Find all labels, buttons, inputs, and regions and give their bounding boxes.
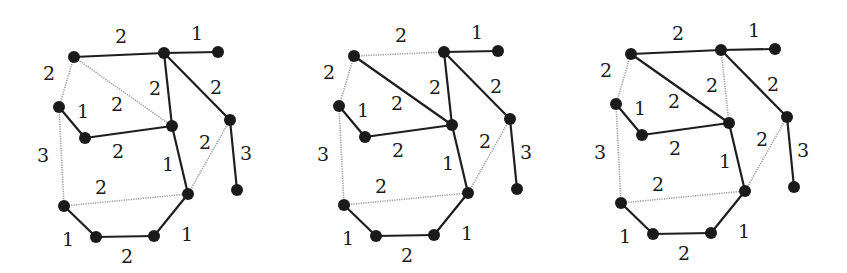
non-tree-edge-a-b	[354, 52, 444, 56]
vertex-d	[333, 100, 345, 112]
edge-weight-e-f: 2	[112, 140, 124, 162]
edge-weight-b-g: 2	[490, 75, 502, 97]
vertex-k	[90, 231, 102, 243]
non-tree-edge-a-d	[339, 56, 354, 106]
edge-weight-a-f: 2	[111, 93, 123, 115]
edge-weight-e-f: 2	[669, 137, 681, 159]
vertex-i	[739, 185, 751, 197]
vertex-j	[58, 200, 70, 212]
tree-edge-b-c	[444, 51, 498, 52]
edge-weight-l-i: 1	[461, 222, 473, 244]
edge-weight-b-g: 2	[767, 73, 779, 95]
vertex-k	[370, 230, 382, 242]
edge-weight-j-k: 1	[62, 228, 74, 250]
vertex-j	[615, 197, 627, 209]
vertex-c	[212, 46, 224, 58]
edge-weight-j-i: 2	[95, 176, 107, 198]
edge-weight-d-j: 3	[37, 144, 49, 166]
edge-weight-g-i: 2	[479, 130, 491, 152]
non-tree-edge-a-d	[59, 57, 74, 107]
spanning-tree-3: 2122221231232121	[594, 19, 809, 264]
edge-weight-a-d: 2	[43, 62, 55, 84]
vertex-a	[68, 51, 80, 63]
edge-weight-j-i: 2	[375, 175, 387, 197]
vertex-g	[504, 113, 516, 125]
vertex-f	[723, 117, 735, 129]
vertex-a	[625, 48, 637, 60]
vertex-l	[428, 229, 440, 241]
vertex-d	[53, 101, 65, 113]
edge-weight-b-f: 2	[706, 74, 718, 96]
vertex-b	[158, 47, 170, 59]
edge-weight-a-f: 2	[668, 90, 680, 112]
edge-weight-e-f: 2	[392, 139, 404, 161]
vertex-h	[511, 183, 523, 195]
tree-edge-k-l	[96, 236, 154, 237]
edge-weight-l-i: 1	[181, 223, 193, 245]
edge-weight-g-i: 2	[199, 131, 211, 153]
non-tree-edge-b-f	[721, 50, 729, 123]
edge-weight-k-l: 2	[401, 244, 413, 266]
tree-edge-f-i	[172, 126, 188, 194]
edge-weight-l-i: 1	[738, 220, 750, 242]
vertex-f	[166, 120, 178, 132]
edge-weight-a-f: 2	[391, 92, 403, 114]
vertex-g	[224, 114, 236, 126]
non-tree-edge-a-d	[616, 54, 631, 104]
vertex-e	[79, 132, 91, 144]
spanning-tree-1: 2122221231232121	[37, 22, 252, 267]
edge-weight-b-c: 1	[471, 21, 483, 43]
vertex-h	[231, 184, 243, 196]
edge-weight-j-k: 1	[619, 225, 631, 247]
edge-weight-j-i: 2	[652, 173, 664, 195]
vertex-d	[610, 98, 622, 110]
vertex-e	[359, 131, 371, 143]
tree-edge-b-f	[164, 53, 172, 126]
edge-weight-f-i: 1	[442, 152, 454, 174]
tree-edge-e-f	[365, 125, 452, 137]
edge-weight-a-b: 2	[115, 25, 127, 47]
tree-edge-a-b	[74, 53, 164, 57]
non-tree-edge-d-j	[59, 107, 64, 206]
tree-edge-g-h	[510, 119, 517, 189]
edge-weight-f-i: 1	[162, 153, 174, 175]
vertex-i	[182, 188, 194, 200]
vertex-l	[705, 227, 717, 239]
vertex-f	[446, 119, 458, 131]
edge-weight-d-e: 1	[634, 97, 646, 119]
vertex-g	[781, 111, 793, 123]
edge-weight-b-g: 2	[210, 76, 222, 98]
tree-edge-f-i	[452, 125, 468, 193]
tree-edge-k-l	[376, 235, 434, 236]
vertex-c	[492, 45, 504, 57]
non-tree-edge-d-j	[616, 104, 621, 203]
non-tree-edge-j-i	[621, 191, 745, 203]
edge-weight-d-j: 3	[594, 141, 606, 163]
edge-weight-a-d: 2	[323, 61, 335, 83]
vertex-b	[438, 46, 450, 58]
edge-weight-g-h: 3	[240, 142, 252, 164]
vertex-b	[715, 44, 727, 56]
edge-weight-d-e: 1	[77, 100, 89, 122]
tree-edge-k-l	[653, 233, 711, 234]
vertex-e	[636, 129, 648, 141]
tree-edge-b-f	[444, 52, 452, 125]
edge-weight-a-b: 2	[395, 24, 407, 46]
edge-weight-g-i: 2	[756, 128, 768, 150]
non-tree-edge-j-i	[64, 194, 188, 206]
vertex-k	[647, 228, 659, 240]
tree-edge-e-f	[85, 126, 172, 138]
edge-weight-g-h: 3	[520, 141, 532, 163]
edge-weight-a-b: 2	[672, 22, 684, 44]
edge-weight-b-c: 1	[191, 22, 203, 44]
tree-edge-b-c	[721, 49, 775, 50]
vertex-j	[338, 199, 350, 211]
vertex-a	[348, 50, 360, 62]
edge-weight-f-i: 1	[719, 150, 731, 172]
tree-edge-g-h	[230, 120, 237, 190]
edge-weight-b-c: 1	[748, 19, 760, 41]
vertex-i	[462, 187, 474, 199]
tree-edge-f-i	[729, 123, 745, 191]
vertex-l	[148, 230, 160, 242]
edge-weight-k-l: 2	[678, 242, 690, 264]
